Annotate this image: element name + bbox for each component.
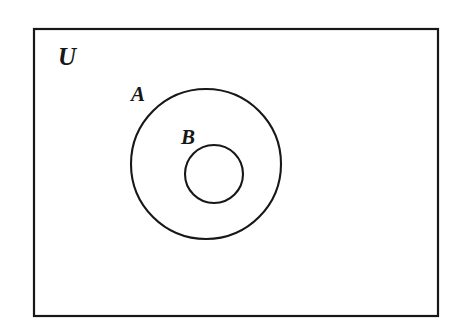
venn-diagram-svg: U A B (0, 0, 458, 329)
universe-rectangle (34, 29, 438, 316)
venn-diagram-canvas: U A B (0, 0, 458, 329)
set-b-circle (185, 145, 243, 203)
set-a-label: A (129, 82, 145, 106)
universe-label: U (58, 43, 78, 70)
set-a-circle (131, 89, 281, 239)
set-b-label: B (180, 125, 195, 149)
